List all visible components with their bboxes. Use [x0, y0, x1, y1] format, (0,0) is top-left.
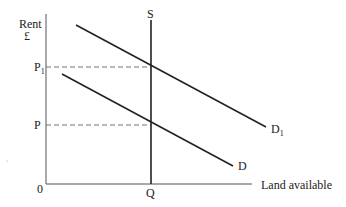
price-label-p: P — [34, 118, 41, 132]
origin-label: 0 — [37, 182, 43, 196]
demand-label-d: D — [238, 159, 247, 173]
x-axis-label: Land available — [261, 178, 332, 192]
demand-label-d1: D1 — [271, 122, 284, 138]
y-axis-label-currency: £ — [24, 29, 30, 43]
supply-label: S — [147, 7, 154, 21]
demand-curve-d1 — [76, 25, 266, 127]
rent-diagram: Rent £ P1 P 0 Q S D1 D Land available — [0, 0, 346, 207]
quantity-label-q: Q — [146, 186, 155, 200]
y-axis-label-rent: Rent — [19, 17, 42, 31]
demand-curve-d — [62, 74, 233, 166]
price-label-p1: P1 — [34, 60, 45, 76]
scan-speck — [6, 160, 7, 161]
